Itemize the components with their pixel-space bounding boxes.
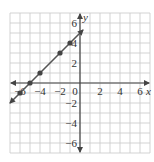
- coordinate-graph: −6−4−20246642−2−4−6xy: [0, 0, 154, 162]
- x-axis-label: x: [145, 85, 151, 97]
- data-point: [17, 90, 22, 95]
- y-axis-label: y: [82, 11, 88, 23]
- data-point: [27, 80, 32, 85]
- x-tick-label: 4: [117, 85, 123, 97]
- x-tick-label: −2: [54, 85, 66, 97]
- x-tick-label: −4: [34, 85, 46, 97]
- data-point: [37, 70, 42, 75]
- y-tick-label: 6: [72, 17, 78, 29]
- y-tick-label: 2: [72, 57, 78, 69]
- data-point: [57, 50, 62, 55]
- x-tick-label: 2: [97, 85, 103, 97]
- tick-labels: −6−4−20246642−2−4−6xy: [14, 11, 151, 149]
- y-tick-label: −6: [65, 137, 77, 149]
- y-tick-label: −4: [65, 117, 77, 129]
- y-tick-label: −2: [65, 97, 77, 109]
- x-tick-label: 6: [137, 85, 143, 97]
- data-point: [67, 40, 72, 45]
- x-tick-label: 0: [72, 85, 78, 97]
